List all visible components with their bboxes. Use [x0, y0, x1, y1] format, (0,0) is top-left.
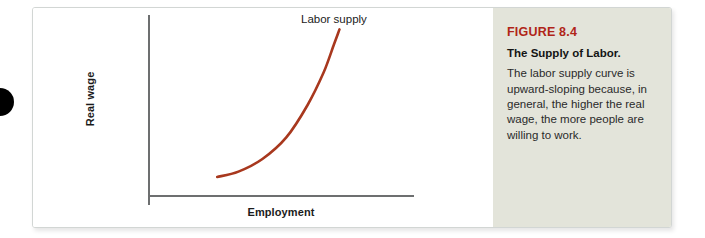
y-axis-label: Real wage [84, 39, 96, 159]
bullet-dot-decoration [0, 88, 14, 116]
figure-number: FIGURE 8.4 [507, 25, 659, 39]
figure-card: Labor supply Real wage Employment FIGURE… [32, 7, 672, 228]
labor-supply-curve [33, 8, 493, 228]
curve-label: Labor supply [301, 13, 367, 25]
figure-screenshot: Labor supply Real wage Employment FIGURE… [0, 0, 705, 238]
caption-pane: FIGURE 8.4 The Supply of Labor. The labo… [493, 8, 672, 227]
figure-title: The Supply of Labor. [507, 46, 659, 60]
chart-pane: Labor supply Real wage Employment [33, 8, 493, 227]
x-axis-label: Employment [148, 206, 414, 218]
figure-description: The labor supply curve is upward-sloping… [507, 66, 659, 142]
